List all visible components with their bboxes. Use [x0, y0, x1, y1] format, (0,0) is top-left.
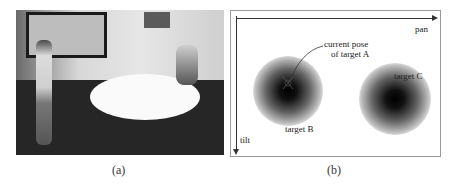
standing-person: [36, 40, 52, 145]
target-b-label: target B: [285, 124, 314, 134]
target-c-label: target C: [394, 71, 423, 81]
caption-b: (b): [327, 163, 341, 178]
annotation-line1: current pose: [324, 39, 368, 49]
pan-tilt-diagram: pan tilt current pose of target A target…: [230, 10, 441, 157]
caption-a: (a): [112, 163, 125, 178]
wall-poster: [144, 12, 170, 28]
pose-annotation-arrow-icon: [231, 11, 440, 156]
annotation-line2: of target A: [331, 49, 369, 59]
camera-view-photo: [16, 10, 224, 155]
seated-person: [176, 45, 198, 85]
